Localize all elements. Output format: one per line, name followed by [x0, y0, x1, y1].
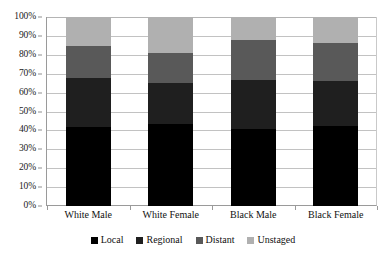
y-tick-label: 100% — [14, 12, 36, 22]
y-tick-label: 50% — [19, 107, 36, 117]
y-tick-mark — [38, 206, 42, 207]
bar-segment[interactable] — [66, 46, 111, 77]
bar-segment[interactable] — [66, 127, 111, 206]
bar-segment[interactable] — [148, 83, 193, 124]
y-tick-label: 60% — [19, 88, 36, 98]
x-tick-mark — [295, 206, 296, 210]
legend-item[interactable]: Distant — [196, 235, 235, 245]
x-tick-mark — [130, 206, 131, 210]
y-tick-mark — [38, 187, 42, 188]
bar-segment[interactable] — [231, 40, 276, 81]
legend-swatch-icon — [196, 237, 203, 244]
bar-segment[interactable] — [231, 80, 276, 129]
y-tick-mark — [38, 73, 42, 74]
y-tick-mark — [38, 54, 42, 55]
bar-segment[interactable] — [313, 126, 358, 206]
y-axis: 100%90%80%70%60%50%40%30%20%10%0% — [0, 17, 42, 206]
bar-segment[interactable] — [231, 129, 276, 206]
legend-label: Local — [101, 235, 124, 245]
bar-group — [295, 17, 378, 206]
bar-group — [212, 17, 295, 206]
legend-item[interactable]: Local — [91, 235, 124, 245]
y-tick-mark — [38, 168, 42, 169]
bar-segment[interactable] — [313, 17, 358, 43]
y-tick-label: 30% — [19, 145, 36, 155]
y-tick-mark — [38, 92, 42, 93]
chart-legend: LocalRegionalDistantUnstaged — [0, 235, 386, 245]
bars-layer — [47, 17, 377, 206]
bar-stack[interactable] — [313, 17, 358, 206]
x-tick-mark — [377, 206, 378, 210]
y-tick-mark — [38, 35, 42, 36]
bar-segment[interactable] — [148, 53, 193, 83]
y-tick-label: 20% — [19, 163, 36, 173]
x-tick-label: Black Male — [212, 209, 295, 220]
x-axis: White MaleWhite FemaleBlack MaleBlack Fe… — [47, 209, 377, 220]
x-tick-mark — [47, 206, 48, 210]
legend-swatch-icon — [91, 237, 98, 244]
bar-segment[interactable] — [313, 81, 358, 125]
y-tick-label: 80% — [19, 50, 36, 60]
legend-label: Regional — [146, 235, 182, 245]
bar-segment[interactable] — [66, 78, 111, 127]
bar-segment[interactable] — [313, 43, 358, 81]
bar-segment[interactable] — [66, 17, 111, 46]
legend-swatch-icon — [136, 237, 143, 244]
x-tick-mark — [212, 206, 213, 210]
legend-label: Distant — [206, 235, 235, 245]
y-tick-label: 70% — [19, 69, 36, 79]
bar-stack[interactable] — [66, 17, 111, 206]
x-tick-label: White Female — [130, 209, 213, 220]
legend-label: Unstaged — [257, 235, 295, 245]
stacked-bar-chart: 100%90%80%70%60%50%40%30%20%10%0% White … — [0, 0, 386, 264]
legend-item[interactable]: Unstaged — [247, 235, 295, 245]
bar-group — [130, 17, 213, 206]
y-tick-label: 0% — [24, 201, 36, 211]
bar-group — [47, 17, 130, 206]
x-tick-label: White Male — [47, 209, 130, 220]
legend-item[interactable]: Regional — [136, 235, 182, 245]
y-tick-mark — [38, 111, 42, 112]
bar-stack[interactable] — [231, 17, 276, 206]
y-tick-label: 10% — [19, 182, 36, 192]
bar-segment[interactable] — [148, 124, 193, 206]
legend-swatch-icon — [247, 237, 254, 244]
x-tick-label: Black Female — [295, 209, 378, 220]
bar-segment[interactable] — [148, 17, 193, 53]
y-tick-mark — [38, 149, 42, 150]
y-tick-mark — [38, 130, 42, 131]
y-tick-mark — [38, 17, 42, 18]
bar-segment[interactable] — [231, 17, 276, 40]
y-tick-label: 40% — [19, 126, 36, 136]
bar-stack[interactable] — [148, 17, 193, 206]
y-tick-label: 90% — [19, 31, 36, 41]
